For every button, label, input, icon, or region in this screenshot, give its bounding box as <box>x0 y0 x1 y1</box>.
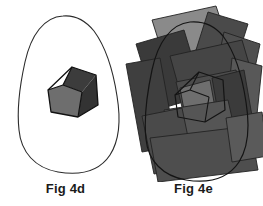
figure-panel-4d: Fig 4d <box>0 0 131 206</box>
figure-panel-4e: Fig 4e <box>124 0 263 206</box>
patch-14 <box>226 112 263 162</box>
figure-caption-4e: Fig 4e <box>124 181 263 197</box>
fig-4e-canvas <box>124 0 263 182</box>
figure-caption-4d: Fig 4d <box>0 181 131 197</box>
fig-4d-canvas <box>0 0 131 182</box>
figure-sheet: Fig 4d <box>0 0 263 206</box>
